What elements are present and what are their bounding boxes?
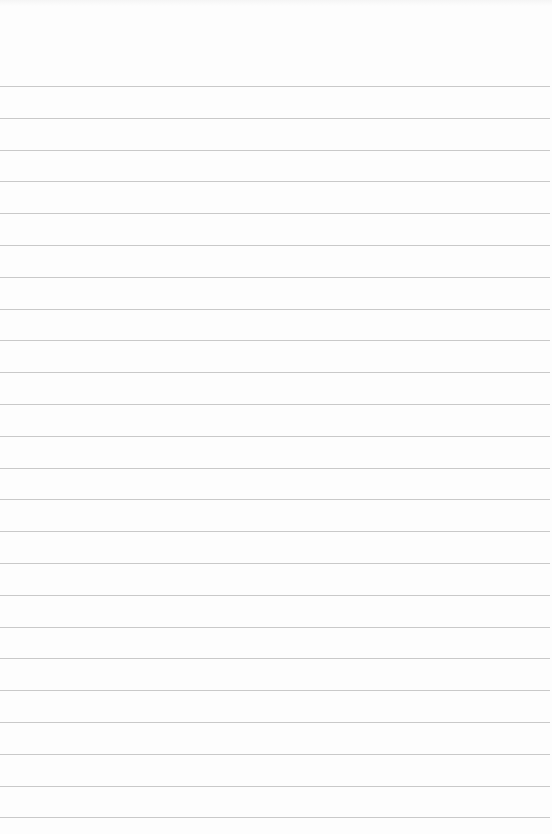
ruled-line	[0, 150, 550, 151]
top-edge-bleed	[0, 0, 552, 6]
ruled-line	[0, 754, 550, 755]
ruled-line	[0, 436, 550, 437]
ruled-line	[0, 404, 550, 405]
ruled-line	[0, 563, 550, 564]
ruled-line	[0, 595, 550, 596]
ruled-line	[0, 213, 550, 214]
ruled-line	[0, 181, 550, 182]
ruled-line	[0, 690, 550, 691]
ruled-line	[0, 277, 550, 278]
ruled-line	[0, 340, 550, 341]
ruled-line	[0, 658, 550, 659]
ruled-line	[0, 722, 550, 723]
ruled-line	[0, 786, 550, 787]
ruled-line	[0, 118, 550, 119]
ruled-line	[0, 499, 550, 500]
ruled-line	[0, 531, 550, 532]
ruled-line	[0, 817, 550, 818]
ruled-line	[0, 245, 550, 246]
ruled-line	[0, 627, 550, 628]
ruled-line	[0, 372, 550, 373]
ruled-line	[0, 468, 550, 469]
ruled-line	[0, 309, 550, 310]
ruled-paper-page	[0, 0, 552, 834]
ruled-line	[0, 86, 550, 87]
